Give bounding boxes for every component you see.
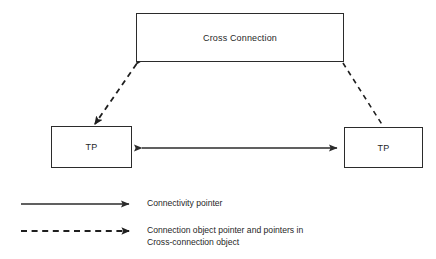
connector-cross-connection-to-tp-left bbox=[95, 64, 137, 124]
node-tp-right: TP bbox=[344, 127, 423, 168]
node-tp-left: TP bbox=[51, 126, 132, 168]
legend-label-connectivity-pointer: Connectivity pointer bbox=[147, 198, 222, 210]
node-cross-connection-label: Cross Connection bbox=[203, 33, 277, 43]
node-tp-right-label: TP bbox=[378, 143, 390, 153]
node-cross-connection: Cross Connection bbox=[136, 13, 344, 62]
connector-cross-connection-to-tp-right bbox=[343, 63, 383, 126]
diagram-canvas: Cross Connection TP TP Connectivity poin… bbox=[0, 0, 436, 259]
legend-label-connection-object-pointer: Connection object pointer and pointers i… bbox=[147, 225, 303, 248]
node-tp-left-label: TP bbox=[86, 142, 98, 152]
